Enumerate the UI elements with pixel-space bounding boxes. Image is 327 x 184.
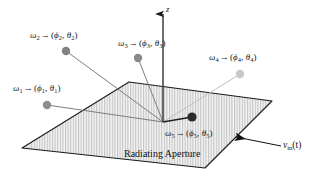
omega-4-phi-index: 4 [238,56,241,63]
source-dot-omega-1 [43,101,51,109]
label-omega-4: ω4→(ϕ4, θ4) [209,53,257,62]
omega-5-index: 5 [171,132,174,139]
aperture-caption-text: Radiating Aperture [124,148,200,159]
omega-3-theta-index: 3 [159,42,162,49]
omega-4-index: 4 [215,56,218,63]
omega-4-theta-index: 4 [250,56,253,63]
z-axis-label: z [166,4,169,14]
omega-5-theta-index: 5 [206,132,209,139]
omega-2-phi-index: 2 [59,34,62,41]
omega-3-index: 3 [124,42,127,49]
vin-label: vin(t) [283,140,301,150]
radiating-aperture-figure: z ω1→(ϕ1, θ1) ω2→(ϕ2, θ2) ω3→(ϕ3, θ3) ω4… [0,0,327,184]
source-dot-omega-4 [236,70,244,78]
vin-argument: (t) [292,140,301,150]
omega-1-theta-index: 1 [54,87,57,94]
omega-3-arrow: → [128,38,139,48]
omega-5-phi-index: 5 [194,132,197,139]
omega-1-index: 1 [19,87,22,94]
z-axis-label-text: z [166,4,169,14]
omega-1-phi-index: 1 [42,87,45,94]
vin-arrow [236,137,281,146]
source-dot-omega-5 [187,112,196,121]
omega-2-index: 2 [36,34,39,41]
label-omega-5: ω5→(ϕ5, θ5) [165,129,213,138]
omega-3-phi-index: 3 [147,42,150,49]
omega-1-arrow: → [23,83,34,93]
omega-2-arrow: → [40,30,51,40]
label-omega-3: ω3→(ϕ3, θ3) [118,39,166,48]
omega-2-theta-index: 2 [71,34,74,41]
source-dot-omega-2 [62,47,70,55]
source-dot-omega-3 [134,54,142,62]
label-omega-1: ω1→(ϕ1, θ1) [13,84,61,93]
omega-4-arrow: → [219,52,230,62]
label-omega-2: ω2→(ϕ2, θ2) [30,31,78,40]
omega-5-arrow: → [175,128,186,138]
vin-subscript: in [287,144,292,151]
aperture-caption: Radiating Aperture [124,148,200,159]
